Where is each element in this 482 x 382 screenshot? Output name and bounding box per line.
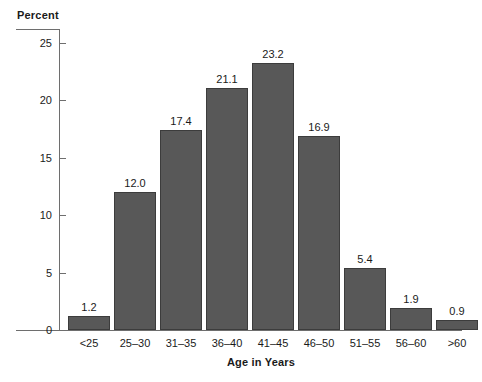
y-axis-tick-label-wrap: 15 [0, 153, 52, 164]
bar[interactable] [390, 308, 432, 330]
x-axis-tick-label: >60 [427, 337, 482, 349]
bar[interactable] [298, 136, 340, 330]
bar-value-label: 0.9 [430, 305, 482, 317]
y-axis-tick-label: 0 [0, 325, 52, 336]
y-axis-tick-label: 20 [0, 95, 52, 106]
bar-value-label: 1.2 [62, 301, 116, 313]
y-axis-tick-label-wrap: 10 [0, 210, 52, 221]
bar[interactable] [252, 63, 294, 330]
bar[interactable] [206, 88, 248, 330]
y-axis-tick-label: 15 [0, 153, 52, 164]
bar-value-label: 1.9 [384, 293, 438, 305]
y-axis-tick-label-wrap: 0 [0, 325, 52, 336]
y-axis-top-cap [16, 29, 60, 30]
bar-value-label: 5.4 [338, 253, 392, 265]
bar[interactable] [68, 316, 110, 330]
y-axis-tick [60, 330, 66, 331]
bar[interactable] [436, 320, 478, 330]
y-axis-tick-label-wrap: 5 [0, 268, 52, 279]
y-axis-title: Percent [17, 9, 59, 22]
bar-value-label: 17.4 [154, 115, 208, 127]
plot-area: 1.212.017.421.123.216.95.41.90.9 [60, 29, 462, 330]
y-axis-tick-label-wrap: 25 [0, 38, 52, 49]
bar-value-label: 21.1 [200, 73, 254, 85]
bar[interactable] [160, 130, 202, 330]
y-axis-tick-label: 5 [0, 268, 52, 279]
bar-value-label: 16.9 [292, 121, 346, 133]
bar-value-label: 12.0 [108, 177, 162, 189]
bar-value-label: 23.2 [246, 48, 300, 60]
bar[interactable] [114, 192, 156, 330]
bar-chart: Percent 0510152025 1.212.017.421.123.216… [0, 0, 482, 382]
y-axis-tick-label: 25 [0, 38, 52, 49]
y-axis-tick-label-wrap: 20 [0, 95, 52, 106]
x-axis-line [16, 330, 462, 331]
bar[interactable] [344, 268, 386, 330]
x-axis-title: Age in Years [60, 356, 462, 369]
y-axis-tick-label: 10 [0, 210, 52, 221]
